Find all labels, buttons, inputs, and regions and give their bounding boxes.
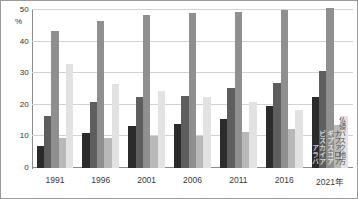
y-axis-tick-40: 40 bbox=[20, 36, 29, 45]
bar-group: 2006 bbox=[174, 10, 211, 168]
bar-bizkaia bbox=[181, 96, 188, 168]
bar-group-bars bbox=[220, 10, 257, 168]
x-axis-tick: 1991 bbox=[45, 175, 64, 185]
bar-bizkaia bbox=[227, 88, 234, 168]
bar-araba bbox=[266, 106, 273, 168]
bar-araba bbox=[174, 124, 181, 168]
x-axis-tick: 2011 bbox=[229, 175, 247, 185]
bar-french-basque bbox=[295, 110, 302, 168]
bar-araba bbox=[82, 133, 89, 168]
bar-nafarroa bbox=[288, 129, 295, 169]
series-label-french-basque: 仏領バスク地方 bbox=[339, 116, 346, 165]
plot-area: 01020304050199119962001200620112016アラバビス… bbox=[32, 10, 353, 168]
y-axis-unit-label: % bbox=[15, 17, 22, 26]
bar-nafarroa bbox=[196, 136, 203, 168]
bar-group: 1996 bbox=[82, 10, 119, 168]
bar-french-basque bbox=[203, 97, 210, 168]
x-axis-tick: 2021年 bbox=[316, 175, 344, 187]
bar-nafarroa bbox=[150, 136, 157, 168]
bar-araba bbox=[128, 126, 135, 168]
series-label-bizkaia: ビスカイア bbox=[319, 130, 326, 165]
bar-group-bars bbox=[266, 10, 303, 168]
bar-bizkaia: ビスカイア bbox=[319, 71, 326, 168]
x-axis-tick: 2016 bbox=[275, 175, 294, 185]
bar-group-bars bbox=[37, 10, 74, 168]
bar-araba bbox=[37, 146, 44, 168]
bar-araba: アラバ bbox=[312, 97, 319, 168]
bar-nafarroa bbox=[59, 138, 66, 168]
bar-gipuzkoa bbox=[281, 10, 288, 168]
bar-chart: % 01020304050199119962001200620112016アラバ… bbox=[0, 0, 358, 199]
bar-group: 2011 bbox=[220, 10, 257, 168]
bar-gipuzkoa: ギプスコア bbox=[326, 8, 333, 168]
bar-gipuzkoa bbox=[51, 31, 58, 168]
bar-nafarroa bbox=[104, 138, 111, 168]
bar-group-bars bbox=[174, 10, 211, 168]
bar-group: 2016 bbox=[266, 10, 303, 168]
x-axis-tick: 2006 bbox=[183, 175, 202, 185]
bar-group: アラバビスカイアギプスコアナファロア仏領バスク地方2021年 bbox=[312, 10, 349, 168]
bar-gipuzkoa bbox=[235, 12, 242, 168]
bar-group-bars: アラバビスカイアギプスコアナファロア仏領バスク地方 bbox=[312, 10, 349, 168]
bar-french-basque bbox=[249, 102, 256, 168]
y-axis-tick-0: 0 bbox=[24, 163, 29, 172]
bar-group-bars bbox=[128, 10, 165, 168]
series-label-gipuzkoa: ギプスコア bbox=[327, 130, 334, 165]
bar-bizkaia bbox=[136, 97, 143, 168]
bar-french-basque bbox=[66, 64, 73, 168]
bar-french-basque bbox=[112, 84, 119, 168]
bar-gipuzkoa bbox=[189, 13, 196, 168]
bar-group: 2001 bbox=[128, 10, 165, 168]
bar-french-basque bbox=[158, 91, 165, 168]
bar-bizkaia bbox=[44, 116, 51, 168]
bar-bizkaia bbox=[273, 83, 280, 168]
bar-group: 1991 bbox=[37, 10, 74, 168]
bar-bizkaia bbox=[90, 102, 97, 168]
y-axis-tick-20: 20 bbox=[20, 99, 29, 108]
bar-french-basque: 仏領バスク地方 bbox=[341, 116, 348, 168]
x-axis-tick: 1996 bbox=[91, 175, 110, 185]
bar-gipuzkoa bbox=[97, 21, 104, 168]
y-axis-tick-30: 30 bbox=[20, 68, 29, 77]
series-label-araba: アラバ bbox=[312, 144, 319, 165]
bar-group-bars bbox=[82, 10, 119, 168]
bar-gipuzkoa bbox=[143, 15, 150, 168]
bar-nafarroa bbox=[242, 132, 249, 168]
y-axis-tick-50: 50 bbox=[20, 5, 29, 14]
y-axis-tick-10: 10 bbox=[20, 131, 29, 140]
bar-araba bbox=[220, 119, 227, 168]
x-axis-tick: 2001 bbox=[137, 175, 156, 185]
